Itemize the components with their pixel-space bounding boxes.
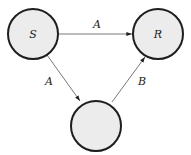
edge-label: A bbox=[92, 18, 101, 31]
node-label: S bbox=[29, 28, 37, 41]
edge-s-to-r: A bbox=[58, 18, 132, 34]
edge-label: B bbox=[137, 75, 146, 88]
diagram-canvas: A A B S R bbox=[0, 0, 191, 155]
edge-label: A bbox=[44, 75, 53, 88]
node-s: S bbox=[8, 9, 58, 59]
node-circle bbox=[71, 101, 121, 151]
node-r: R bbox=[133, 9, 183, 59]
node-label: R bbox=[153, 28, 162, 41]
node-middle bbox=[71, 101, 121, 151]
edge-m-to-r: B bbox=[112, 57, 146, 102]
edge-s-to-m: A bbox=[44, 55, 80, 101]
